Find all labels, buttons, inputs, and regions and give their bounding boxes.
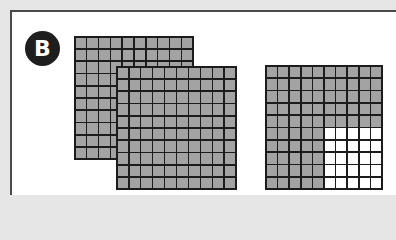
grid-cell [147, 38, 157, 49]
grid-cell [213, 153, 223, 164]
grid-cell [290, 178, 300, 189]
grid-cell [336, 67, 346, 78]
grid-cell [123, 38, 133, 49]
grid-cell [201, 178, 211, 189]
grid-cell [201, 104, 211, 115]
grid-cell [278, 79, 288, 90]
grid-cell [177, 117, 187, 128]
grid-cell [177, 141, 187, 152]
grid-cell [213, 141, 223, 152]
grid-cell [325, 165, 335, 176]
grid-cell [153, 178, 163, 189]
grid-cell [278, 165, 288, 176]
grid-cell [371, 104, 381, 115]
grid-cell [99, 136, 109, 147]
grid-cell [360, 153, 370, 164]
grid-cell [348, 91, 358, 102]
grid-cell [267, 128, 277, 139]
grid-cell [177, 178, 187, 189]
grid-cell [290, 141, 300, 152]
grid-cell [290, 67, 300, 78]
grid-cell [76, 38, 86, 49]
partial-hundred-grid [265, 65, 383, 190]
grid-cell [99, 123, 109, 134]
grid-cell [165, 178, 175, 189]
grid-cell [118, 166, 128, 177]
grid-cell [130, 117, 140, 128]
grid-cell [153, 141, 163, 152]
grid-cell [99, 74, 109, 85]
grid-cell [177, 129, 187, 140]
grid-cell [189, 166, 199, 177]
grid-cell [225, 141, 235, 152]
grid-cell [87, 87, 97, 98]
grid-cell [267, 104, 277, 115]
grid-cell [76, 148, 86, 159]
grid-cell [336, 79, 346, 90]
grid-cell [130, 141, 140, 152]
grid-cell [118, 129, 128, 140]
grid-cell [165, 68, 175, 79]
figure-label-badge: B [25, 31, 60, 66]
grid-cell [313, 67, 323, 78]
grid-cell [189, 80, 199, 91]
grid-cell [371, 165, 381, 176]
grid-cell [278, 67, 288, 78]
grid-cell [201, 92, 211, 103]
grid-cell [336, 153, 346, 164]
grid-cell [225, 80, 235, 91]
grid-cell [360, 128, 370, 139]
grid-cell [165, 104, 175, 115]
grid-cell [302, 153, 312, 164]
grid-cell [130, 178, 140, 189]
grid-cell [76, 87, 86, 98]
grid-cell [135, 38, 145, 49]
grid-cell [290, 104, 300, 115]
grid-cell [99, 111, 109, 122]
grid-cell [158, 50, 168, 61]
grid-cell [371, 128, 381, 139]
grid-cell [267, 153, 277, 164]
grid-cell [118, 153, 128, 164]
grid-cell [313, 141, 323, 152]
grid-cell [371, 91, 381, 102]
grid-cell [267, 91, 277, 102]
grid-cell [153, 153, 163, 164]
grid-cell [130, 80, 140, 91]
grid-cell [76, 74, 86, 85]
grid-cell [213, 68, 223, 79]
grid-cell [153, 129, 163, 140]
grid-cell [267, 67, 277, 78]
grid-cell [87, 99, 97, 110]
grid-cell [99, 62, 109, 73]
grid-cell [336, 91, 346, 102]
grid-cell [201, 80, 211, 91]
grid-cell [165, 92, 175, 103]
grid-cell [165, 80, 175, 91]
grid-cell [118, 178, 128, 189]
grid-cell [325, 141, 335, 152]
grid-cell [225, 117, 235, 128]
grid-cell [213, 117, 223, 128]
grid-cell [278, 153, 288, 164]
grid-cell [87, 50, 97, 61]
grid-cell [130, 166, 140, 177]
grid-cell [153, 68, 163, 79]
grid-cell [141, 80, 151, 91]
grid-cell [76, 111, 86, 122]
grid-cell [141, 153, 151, 164]
grid-cell [87, 38, 97, 49]
grid-cell [170, 50, 180, 61]
grid-cell [267, 165, 277, 176]
grid-cell [360, 141, 370, 152]
grid-cell [371, 141, 381, 152]
grid-cell [302, 79, 312, 90]
grid-cell [213, 166, 223, 177]
grid-cell [290, 153, 300, 164]
grid-cell [325, 67, 335, 78]
grid-cell [177, 68, 187, 79]
grid-cell [201, 166, 211, 177]
grid-cell [165, 129, 175, 140]
grid-cell [99, 99, 109, 110]
grid-cell [118, 92, 128, 103]
